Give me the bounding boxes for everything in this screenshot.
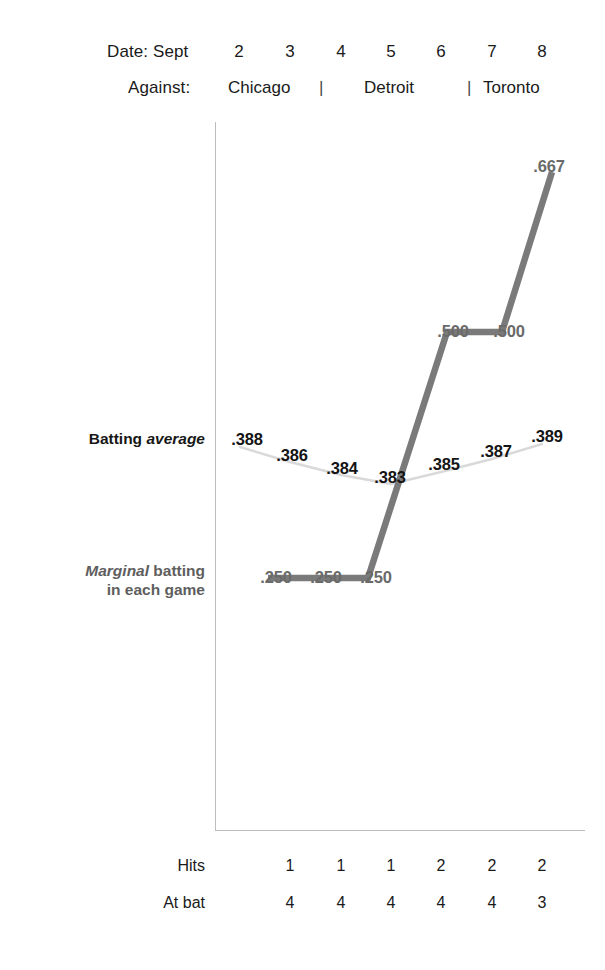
data-label-average-3: .383 bbox=[366, 468, 414, 487]
data-label-marginal-4: .500 bbox=[485, 322, 533, 341]
series-label-marg-rest: batting bbox=[149, 562, 205, 579]
series-label-marg-line2: in each game bbox=[107, 581, 205, 598]
series-label-avg-emph: average bbox=[146, 430, 205, 447]
data-label-marginal-3: .500 bbox=[429, 322, 477, 341]
at-bat-cell-3: 4 bbox=[429, 894, 453, 912]
at-bat-cell-2: 4 bbox=[379, 894, 403, 912]
date-tick-2: 2 bbox=[227, 42, 251, 62]
data-label-average-4: .385 bbox=[420, 455, 468, 474]
series-label-marginal-batting: Marginal batting in each game bbox=[10, 561, 205, 600]
opponent-chicago: Chicago bbox=[228, 78, 290, 98]
date-row-label: Date: Sept bbox=[107, 42, 188, 62]
chart-page: Date: Sept 2345678 Against: Chicago | De… bbox=[0, 0, 605, 970]
series-label-marg-emph: Marginal bbox=[85, 562, 149, 579]
at-bat-cell-4: 4 bbox=[480, 894, 504, 912]
data-label-average-0: .388 bbox=[223, 430, 271, 449]
marginal-batting-line bbox=[268, 172, 552, 578]
data-label-average-6: .389 bbox=[523, 427, 571, 446]
data-label-marginal-1: .250 bbox=[302, 568, 350, 587]
at-bat-cell-5: 3 bbox=[530, 894, 554, 912]
at-bat-row-label: At bat bbox=[110, 894, 205, 912]
series-label-batting-average: Batting average bbox=[10, 429, 205, 448]
data-label-marginal-0: .250 bbox=[252, 568, 300, 587]
data-label-average-1: .386 bbox=[268, 446, 316, 465]
y-axis-line bbox=[215, 122, 216, 831]
data-label-marginal-5: .667 bbox=[525, 157, 573, 176]
opponent-toronto: Toronto bbox=[483, 78, 540, 98]
date-tick-7: 7 bbox=[480, 42, 504, 62]
date-tick-3: 3 bbox=[278, 42, 302, 62]
hits-cell-5: 2 bbox=[530, 857, 554, 875]
data-label-average-2: .384 bbox=[318, 459, 366, 478]
x-axis-line bbox=[215, 830, 585, 831]
at-bat-cell-0: 4 bbox=[278, 894, 302, 912]
hits-cell-3: 2 bbox=[429, 857, 453, 875]
opponent-detroit: Detroit bbox=[364, 78, 414, 98]
data-label-average-5: .387 bbox=[472, 442, 520, 461]
opponent-separator-2: | bbox=[467, 78, 471, 98]
against-row-label: Against: bbox=[128, 78, 190, 98]
date-tick-8: 8 bbox=[530, 42, 554, 62]
hits-cell-1: 1 bbox=[329, 857, 353, 875]
opponent-separator-1: | bbox=[319, 78, 323, 98]
data-label-marginal-2: .250 bbox=[352, 568, 400, 587]
date-tick-4: 4 bbox=[329, 42, 353, 62]
hits-cell-4: 2 bbox=[480, 857, 504, 875]
date-tick-5: 5 bbox=[379, 42, 403, 62]
at-bat-cell-1: 4 bbox=[329, 894, 353, 912]
date-tick-6: 6 bbox=[429, 42, 453, 62]
hits-row-label: Hits bbox=[110, 857, 205, 875]
hits-cell-2: 1 bbox=[379, 857, 403, 875]
plot-area bbox=[0, 0, 605, 970]
hits-cell-0: 1 bbox=[278, 857, 302, 875]
series-label-avg-prefix: Batting bbox=[89, 430, 147, 447]
